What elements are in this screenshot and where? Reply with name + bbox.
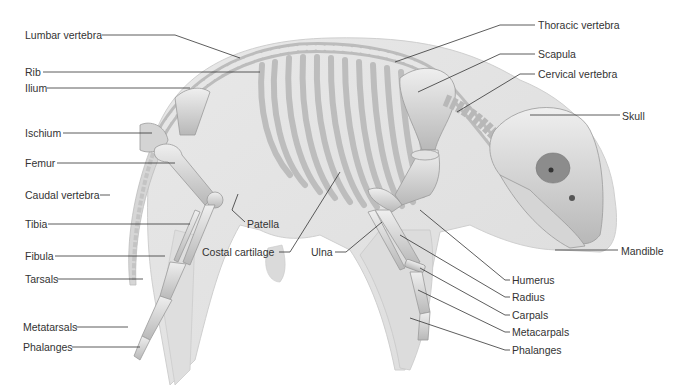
label-patella: Patella bbox=[247, 218, 279, 230]
label-carpals: Carpals bbox=[512, 309, 548, 321]
label-ilium: Ilium bbox=[25, 82, 47, 94]
label-phalanges-fore: Phalanges bbox=[512, 344, 562, 356]
pig-skeleton-diagram: Lumbar vertebra Rib Ilium Ischium Femur … bbox=[0, 0, 678, 392]
label-femur: Femur bbox=[25, 157, 55, 169]
label-radius: Radius bbox=[512, 291, 545, 303]
label-tibia: Tibia bbox=[25, 218, 47, 230]
label-scapula: Scapula bbox=[538, 48, 576, 60]
label-metacarpals: Metacarpals bbox=[512, 326, 569, 338]
label-humerus: Humerus bbox=[512, 274, 555, 286]
label-rib: Rib bbox=[25, 66, 41, 78]
label-cervical-vertebra: Cervical vertebra bbox=[538, 68, 617, 80]
label-ulna: Ulna bbox=[311, 246, 333, 258]
label-lumbar-vertebra: Lumbar vertebra bbox=[25, 29, 102, 41]
label-costal-cartilage: Costal cartilage bbox=[202, 246, 274, 258]
label-tarsals: Tarsals bbox=[25, 273, 58, 285]
skeleton-illustration bbox=[0, 0, 678, 392]
label-fibula: Fibula bbox=[25, 250, 54, 262]
label-mandible: Mandible bbox=[621, 245, 664, 257]
label-thoracic-vertebra: Thoracic vertebra bbox=[538, 19, 620, 31]
label-skull: Skull bbox=[622, 110, 645, 122]
label-ischium: Ischium bbox=[25, 127, 61, 139]
label-phalanges-hind: Phalanges bbox=[23, 341, 73, 353]
label-metatarsals: Metatarsals bbox=[23, 321, 77, 333]
label-caudal-vertebra: Caudal vertebra bbox=[25, 189, 100, 201]
